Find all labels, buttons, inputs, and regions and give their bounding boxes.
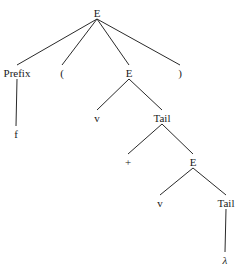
edge-E1-v1 <box>97 79 129 110</box>
edge-Tail1-plus <box>128 124 162 154</box>
edge-E0-Prefix <box>17 19 97 65</box>
node-rparen: ) <box>178 67 182 80</box>
edge-E0-E1 <box>97 19 129 65</box>
edge-Prefix-f <box>16 79 17 126</box>
edge-Tail2-lambda <box>225 209 226 252</box>
node-v1: v <box>94 112 100 124</box>
nodes-layer: EPrefix(E)fvTail+EvTailλ <box>4 7 235 266</box>
edge-E0-lparen <box>62 19 97 65</box>
node-v2: v <box>157 197 163 209</box>
node-plus: + <box>125 156 131 168</box>
node-Tail1: Tail <box>154 112 171 124</box>
parse-tree-diagram: EPrefix(E)fvTail+EvTailλ <box>0 0 237 278</box>
node-E1: E <box>126 67 133 79</box>
edge-E2-v2 <box>160 168 193 195</box>
edge-E1-Tail1 <box>129 79 162 110</box>
node-Tail2: Tail <box>218 197 235 209</box>
node-E0: E <box>94 7 101 19</box>
edge-Tail1-E2 <box>162 124 193 154</box>
node-E2: E <box>190 156 197 168</box>
node-Prefix: Prefix <box>4 67 31 79</box>
node-lparen: ( <box>60 67 64 80</box>
node-lambda: λ <box>222 254 228 266</box>
edge-E2-Tail2 <box>193 168 226 195</box>
node-f: f <box>14 128 18 140</box>
edge-E0-rparen <box>97 19 180 65</box>
edges-layer <box>16 19 226 252</box>
